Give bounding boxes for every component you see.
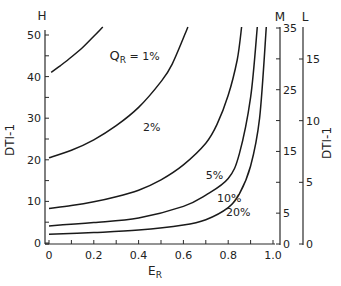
x-axis-title: ER [148, 264, 162, 280]
curve-2- [49, 27, 188, 158]
m-axis-tick-label: 0 [283, 238, 290, 251]
y-axis-title-right: DTI-1 [320, 127, 334, 159]
curve-label: 10% [217, 192, 241, 205]
m-axis-tick-label: 25 [283, 84, 297, 97]
h-axis-tick-label: 10 [27, 195, 41, 208]
h-axis-tick-label: 0 [34, 237, 41, 250]
curve-q-r-1- [51, 27, 103, 72]
curve-label: 5% [206, 169, 223, 182]
m-axis-tick-label: 5 [283, 207, 290, 220]
x-axis-title-sub: R [156, 270, 162, 280]
x-tick-label: 1.0 [264, 249, 282, 262]
l-axis-letter: L [302, 10, 309, 24]
curve-label-value: = 1% [126, 50, 160, 63]
h-axis-tick-label: 40 [27, 71, 41, 84]
m-axis-tick-label: 15 [283, 145, 297, 158]
curve-label: QR = 1% [109, 48, 159, 65]
chart: 00.20.40.60.81.0010203040500515253505101… [0, 0, 341, 286]
l-axis-tick-label: 0 [306, 238, 313, 251]
l-axis-tick-label: 5 [306, 176, 313, 189]
h-axis-tick-label: 50 [27, 29, 41, 42]
x-tick-label: 0 [46, 249, 53, 262]
x-axis-title-main: E [148, 264, 156, 278]
y-axis-title-left: DTI-1 [3, 124, 17, 156]
h-axis-tick-label: 30 [27, 112, 41, 125]
x-tick-label: 0.4 [130, 249, 148, 262]
x-tick-label: 0.8 [219, 249, 237, 262]
h-axis-tick-label: 20 [27, 154, 41, 167]
l-axis-tick-label: 15 [306, 53, 320, 66]
curve-label: 20% [226, 206, 250, 219]
m-axis-letter: M [275, 10, 285, 24]
l-axis-tick-label: 10 [306, 115, 320, 128]
x-tick-label: 0.2 [85, 249, 103, 262]
curve-label-q: Q [109, 48, 119, 63]
x-tick-label: 0.6 [175, 249, 193, 262]
curve-label: 2% [143, 121, 160, 134]
h-axis-letter: H [37, 9, 46, 23]
